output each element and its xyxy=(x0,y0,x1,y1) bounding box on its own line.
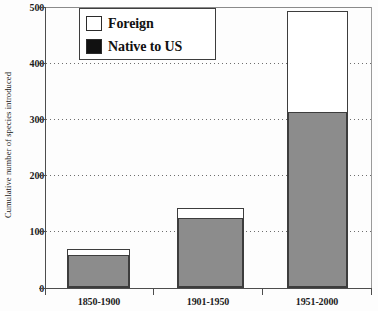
x-tick-label-1850-1900: 1850-1900 xyxy=(44,296,154,307)
legend-swatch-foreign-icon xyxy=(86,16,102,31)
x-axis-line xyxy=(45,288,372,289)
x-tick-mark-3 xyxy=(371,289,372,295)
legend-label-foreign: Foreign xyxy=(108,16,154,32)
legend-swatch-native-icon xyxy=(86,39,102,54)
y-axis-title: Cumulative number of species introduced xyxy=(3,72,13,218)
bar-1951-2000-native[interactable] xyxy=(288,112,347,287)
x-tick-mark-0 xyxy=(45,289,46,295)
legend-item-native-to-us: Native to US xyxy=(86,35,210,58)
bar-1850-1900-total[interactable] xyxy=(67,249,130,288)
bar-chart-figure: Cumulative number of species introduced … xyxy=(0,0,378,311)
legend-label-native-to-us: Native to US xyxy=(108,39,182,55)
legend: Foreign Native to US xyxy=(79,8,216,60)
x-tick-mark-2 xyxy=(262,289,263,295)
bar-1850-1900-native[interactable] xyxy=(68,255,129,287)
x-tick-label-1901-1950: 1901-1950 xyxy=(153,296,263,307)
bar-1951-2000-total[interactable] xyxy=(287,11,348,288)
x-tick-label-1951-2000: 1951-2000 xyxy=(262,296,372,307)
y-axis-title-container: Cumulative number of species introduced xyxy=(0,0,16,290)
bar-1901-1950-total[interactable] xyxy=(177,208,244,288)
bar-1901-1950-native[interactable] xyxy=(178,218,243,287)
legend-item-foreign: Foreign xyxy=(86,12,210,35)
plot-right-frame xyxy=(371,7,372,289)
x-tick-mark-1 xyxy=(153,289,154,295)
